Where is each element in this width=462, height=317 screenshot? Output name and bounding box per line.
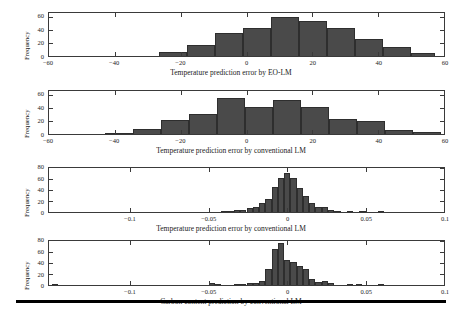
x-tick-mark <box>209 168 210 172</box>
x-tick-mark <box>209 241 210 245</box>
bar <box>329 119 357 134</box>
figure-histogram-panel: Frequency 0 20 40 60 <box>0 0 462 317</box>
x-tick-label-2-2: −20 <box>175 137 185 144</box>
x-tick-mark <box>287 281 288 285</box>
y-tick-mark <box>440 241 444 242</box>
x-axis-label-2: Temperature prediction error by conventi… <box>0 146 462 155</box>
bar <box>245 107 273 134</box>
x-tick-mark <box>247 13 248 17</box>
histogram-panel-4: Frequency 0 20 40 60 80 <box>0 228 462 308</box>
y-tick-mark <box>49 17 53 18</box>
y-tick-label-1-2: 40 <box>28 26 44 33</box>
bar <box>243 28 271 56</box>
x-tick-label-3-0: −0.1 <box>124 215 136 222</box>
y-tick-mark <box>440 212 444 213</box>
x-tick-mark <box>378 130 379 134</box>
bar <box>413 132 441 134</box>
bar <box>328 283 334 285</box>
plot-area-2 <box>48 90 445 135</box>
x-tick-label-2-5: 40 <box>376 137 383 144</box>
y-tick-label-4-2: 40 <box>28 260 44 267</box>
y-tick-mark <box>49 108 53 109</box>
histogram-panel-3: Frequency 0 20 40 60 80 <box>0 155 462 235</box>
bar <box>347 211 353 212</box>
bar <box>385 130 413 134</box>
x-tick-mark <box>130 208 131 212</box>
y-tick-label-2-3: 60 <box>28 91 44 98</box>
y-tick-mark <box>440 56 444 57</box>
bar <box>378 211 384 212</box>
x-tick-mark <box>312 91 313 95</box>
x-tick-mark <box>247 91 248 95</box>
y-tick-mark <box>440 190 444 191</box>
x-tick-label-1-6: 60 <box>442 59 449 66</box>
x-tick-mark <box>209 281 210 285</box>
y-tick-mark <box>440 30 444 31</box>
y-tick-label-4-1: 20 <box>28 271 44 278</box>
bottom-horizontal-rule <box>16 300 446 303</box>
x-tick-label-2-1: −40 <box>109 137 119 144</box>
y-tick-label-3-2: 40 <box>28 187 44 194</box>
y-tick-mark <box>49 179 53 180</box>
x-tick-label-4-2: 0 <box>286 288 289 295</box>
bar <box>299 21 327 56</box>
y-tick-mark <box>49 252 53 253</box>
x-tick-label-3-4: 0.1 <box>441 215 449 222</box>
y-tick-mark <box>440 274 444 275</box>
x-tick-mark <box>366 241 367 245</box>
x-tick-label-4-1: −0.05 <box>201 288 216 295</box>
y-tick-mark <box>49 95 53 96</box>
bar <box>411 53 435 56</box>
bar <box>105 133 133 134</box>
bar <box>187 45 215 56</box>
bar <box>273 100 301 134</box>
bar <box>215 284 221 285</box>
x-tick-label-4-4: 0.1 <box>441 288 449 295</box>
x-tick-mark <box>312 13 313 17</box>
y-tick-label-3-4: 80 <box>28 164 44 171</box>
x-tick-label-2-6: 60 <box>442 137 449 144</box>
x-tick-label-2-0: −60 <box>43 137 53 144</box>
x-tick-mark <box>366 281 367 285</box>
bar <box>215 33 243 56</box>
y-tick-mark <box>440 17 444 18</box>
y-tick-label-3-3: 60 <box>28 175 44 182</box>
bars-3 <box>49 168 444 212</box>
bar <box>383 47 411 56</box>
x-tick-mark <box>378 91 379 95</box>
x-tick-label-4-3: 0.05 <box>361 288 372 295</box>
y-tick-mark <box>440 168 444 169</box>
x-tick-mark <box>287 208 288 212</box>
y-tick-mark <box>440 43 444 44</box>
y-tick-label-1-3: 60 <box>28 13 44 20</box>
y-tick-label-3-0: 0 <box>28 210 44 217</box>
y-tick-label-2-2: 40 <box>28 104 44 111</box>
bar <box>327 28 355 56</box>
x-tick-label-1-4: 20 <box>309 59 316 66</box>
bar <box>133 129 161 134</box>
x-tick-mark <box>181 130 182 134</box>
histogram-panel-2: Frequency 0 20 40 60 <box>0 78 462 158</box>
plot-area-3 <box>48 167 445 213</box>
y-tick-label-1-1: 20 <box>28 40 44 47</box>
x-tick-label-2-3: 0 <box>245 137 248 144</box>
y-tick-mark <box>49 121 53 122</box>
x-tick-mark <box>181 52 182 56</box>
bars-2 <box>49 91 444 134</box>
plot-area-1 <box>48 12 445 57</box>
y-tick-mark <box>440 201 444 202</box>
x-tick-label-3-1: −0.05 <box>201 215 216 222</box>
x-tick-mark <box>287 241 288 245</box>
y-tick-label-3-1: 20 <box>28 198 44 205</box>
x-tick-mark <box>115 91 116 95</box>
x-tick-mark <box>312 52 313 56</box>
bar <box>271 17 299 56</box>
y-tick-label-4-3: 60 <box>28 248 44 255</box>
x-tick-mark <box>181 13 182 17</box>
y-tick-label-2-1: 20 <box>28 118 44 125</box>
y-tick-mark <box>49 30 53 31</box>
bar <box>356 284 362 285</box>
plot-area-4 <box>48 240 445 286</box>
y-tick-mark <box>49 43 53 44</box>
y-tick-label-1-0: 0 <box>28 54 44 61</box>
